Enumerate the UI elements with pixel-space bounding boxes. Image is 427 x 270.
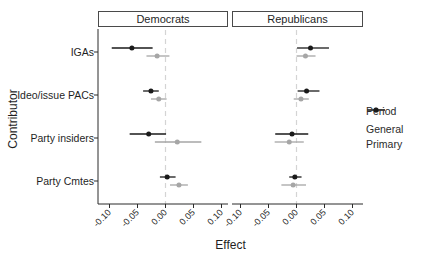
- point-estimate-dot: [148, 89, 153, 94]
- point-estimate-dot: [298, 97, 303, 102]
- x-tick-label: 0.10: [205, 207, 224, 226]
- point-estimate-dot: [129, 46, 134, 51]
- point-estimate-dot: [292, 175, 297, 180]
- x-axis-title: Effect: [98, 238, 363, 252]
- x-tick-label: 0.05: [177, 207, 196, 226]
- point-estimate-dot: [155, 54, 160, 59]
- facet-strip-democrats: Democrats: [98, 11, 228, 27]
- point-estimate-dot: [165, 175, 170, 180]
- x-tick-label: 0.00: [149, 207, 168, 226]
- x-tick-label: 0.00: [280, 207, 299, 226]
- legend-entry-general: General: [366, 121, 426, 136]
- facet-strip-republicans: Republicans: [232, 11, 363, 27]
- point-estimate-dot: [146, 132, 151, 137]
- primary-line-dot-icon: [366, 105, 386, 115]
- x-tick-label: 0.10: [336, 207, 355, 226]
- legend: Period General Primary: [366, 105, 426, 151]
- x-tick-label: -0.10: [222, 207, 244, 229]
- x-tick-label: -0.10: [91, 207, 113, 229]
- point-estimate-dot: [291, 183, 296, 188]
- point-estimate-dot: [308, 46, 313, 51]
- point-estimate-dot: [303, 54, 308, 59]
- legend-label-general: General: [366, 123, 403, 135]
- legend-label-primary: Primary: [366, 138, 402, 150]
- point-estimate-dot: [290, 132, 295, 137]
- point-estimate-dot: [287, 140, 292, 145]
- y-axis-title: Contributor: [6, 59, 20, 179]
- facet-label-democrats: Democrats: [136, 13, 189, 25]
- forest-plot: -0.10-0.050.000.050.10-0.10-0.050.000.05…: [0, 0, 427, 270]
- legend-entry-primary: Primary: [366, 136, 426, 151]
- x-tick-label: 0.05: [308, 207, 327, 226]
- point-estimate-dot: [176, 183, 181, 188]
- x-tick-label: -0.05: [250, 207, 272, 229]
- x-tick-label: -0.05: [119, 207, 141, 229]
- point-estimate-dot: [175, 140, 180, 145]
- category-label-igas: IGAs: [0, 46, 94, 58]
- point-estimate-dot: [156, 97, 161, 102]
- point-estimate-dot: [304, 89, 309, 94]
- facet-label-republicans: Republicans: [267, 13, 328, 25]
